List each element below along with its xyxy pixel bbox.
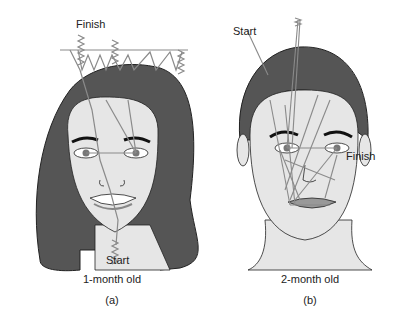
letter-b: (b)	[250, 294, 370, 306]
finish-label-a: Finish	[76, 18, 105, 30]
start-label-b: Start	[233, 25, 256, 37]
finish-label-b: Finish	[346, 150, 375, 162]
panel-a-face	[36, 64, 198, 270]
caption-a: 1-month old	[52, 273, 172, 285]
letter-a: (a)	[52, 294, 172, 306]
start-label-a: Start	[106, 254, 129, 266]
caption-b: 2-month old	[250, 273, 370, 285]
